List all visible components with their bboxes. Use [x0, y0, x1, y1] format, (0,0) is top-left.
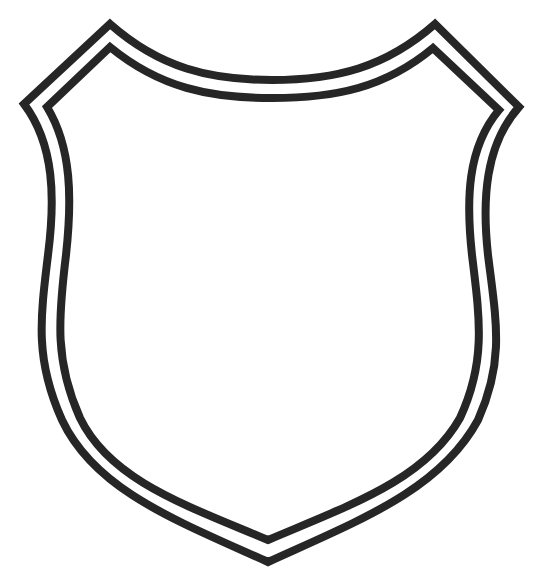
- shield-icon: [0, 0, 541, 587]
- shield-canvas: [0, 0, 541, 587]
